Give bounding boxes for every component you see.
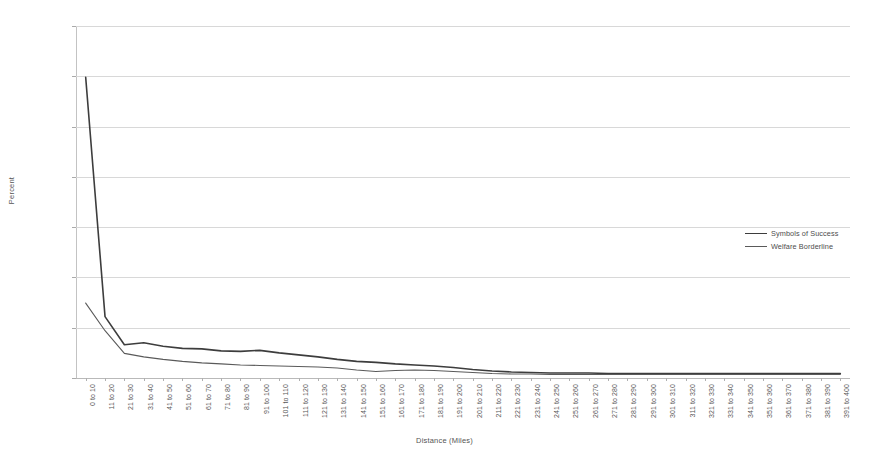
x-axis-tick-mark <box>647 378 648 381</box>
x-axis-tick-label: 151 to 160 <box>379 384 386 418</box>
x-axis-tick-label: 261 to 270 <box>592 384 599 418</box>
x-axis-tick-label: 61 to 70 <box>205 384 212 410</box>
x-axis-tick-label: 391 to 400 <box>843 384 850 418</box>
legend-swatch-line-icon <box>745 233 767 234</box>
x-axis-tick-label: 171 to 180 <box>418 384 425 418</box>
x-axis-tick-label: 41 to 50 <box>166 384 173 410</box>
x-axis-tick-mark <box>802 378 803 381</box>
x-axis-tick-mark <box>531 378 532 381</box>
x-axis-tick-label: 181 to 190 <box>437 384 444 418</box>
x-axis-tick-label: 141 to 150 <box>360 384 367 418</box>
gridline <box>76 378 850 379</box>
series-line <box>86 77 841 373</box>
x-axis-tick-label: 361 to 370 <box>785 384 792 418</box>
x-axis-tick-mark <box>821 378 822 381</box>
x-axis-tick-label: 191 to 200 <box>456 384 463 418</box>
x-axis-tick-mark <box>666 378 667 381</box>
x-axis-tick-label: 231 to 240 <box>534 384 541 418</box>
x-axis-tick-label: 101 to 110 <box>282 384 289 418</box>
line-chart: Percent 010203040506070 0 to 1011 to 202… <box>0 0 889 470</box>
x-axis-tick-mark <box>724 378 725 381</box>
x-axis-tick-mark <box>492 378 493 381</box>
x-axis-tick-mark <box>299 378 300 381</box>
x-axis-tick-label: 111 to 120 <box>302 384 309 417</box>
x-axis-tick-label: 351 to 360 <box>766 384 773 418</box>
x-axis-tick-label: 301 to 310 <box>669 384 676 418</box>
x-axis-tick-label: 11 to 20 <box>108 384 115 410</box>
x-axis-tick-mark <box>182 378 183 381</box>
x-axis-tick-mark <box>318 378 319 381</box>
legend-label: Symbols of Success <box>771 227 839 240</box>
x-axis-tick-label: 161 to 170 <box>398 384 405 418</box>
x-axis-tick-mark <box>202 378 203 381</box>
x-axis-tick-label: 31 to 40 <box>147 384 154 410</box>
x-axis-tick-mark <box>105 378 106 381</box>
x-axis-tick-mark <box>260 378 261 381</box>
legend-item: Symbols of Success <box>745 227 839 240</box>
y-axis-tick-mark <box>72 378 76 379</box>
x-axis-tick-label: 21 to 30 <box>127 384 134 410</box>
x-axis-tick-label: 131 to 140 <box>340 384 347 418</box>
x-axis-tick-mark <box>163 378 164 381</box>
x-axis-tick-mark <box>840 378 841 381</box>
series-lines <box>76 26 850 378</box>
x-axis-tick-mark <box>511 378 512 381</box>
x-axis-tick-mark <box>395 378 396 381</box>
x-axis-tick-label: 321 to 330 <box>708 384 715 418</box>
x-axis-tick-label: 381 to 390 <box>824 384 831 418</box>
x-axis-tick-mark <box>473 378 474 381</box>
x-axis-tick-label: 211 to 220 <box>495 384 502 418</box>
plot-area: 010203040506070 0 to 1011 to 2021 to 303… <box>76 26 850 378</box>
x-axis-tick-label: 51 to 60 <box>185 384 192 410</box>
x-axis-tick-mark <box>376 378 377 381</box>
x-axis-tick-label: 371 to 380 <box>805 384 812 418</box>
x-axis-tick-label: 251 to 260 <box>572 384 579 418</box>
x-axis-tick-mark <box>124 378 125 381</box>
x-axis-tick-label: 221 to 230 <box>514 384 521 418</box>
legend: Symbols of SuccessWelfare Borderline <box>745 227 839 253</box>
x-axis-tick-mark <box>415 378 416 381</box>
x-axis-tick-mark <box>705 378 706 381</box>
x-axis-tick-label: 241 to 250 <box>553 384 560 418</box>
x-axis-tick-mark <box>569 378 570 381</box>
x-axis-tick-label: 291 to 300 <box>650 384 657 418</box>
x-axis-tick-label: 81 to 90 <box>243 384 250 410</box>
x-axis-tick-mark <box>686 378 687 381</box>
x-axis-tick-mark <box>337 378 338 381</box>
x-axis-tick-label: 281 to 290 <box>630 384 637 418</box>
legend-label: Welfare Borderline <box>771 240 833 253</box>
x-axis-tick-mark <box>763 378 764 381</box>
x-axis-tick-mark <box>357 378 358 381</box>
series-line <box>86 303 841 374</box>
x-axis-tick-mark <box>86 378 87 381</box>
x-axis-tick-mark <box>240 378 241 381</box>
x-axis-tick-label: 121 to 130 <box>321 384 328 418</box>
x-axis-tick-label: 201 to 210 <box>476 384 483 418</box>
y-axis-title: Percent <box>7 161 16 221</box>
legend-item: Welfare Borderline <box>745 240 839 253</box>
x-axis-tick-label: 271 to 280 <box>611 384 618 418</box>
x-axis-tick-label: 311 to 320 <box>689 384 696 418</box>
x-axis-tick-mark <box>627 378 628 381</box>
x-axis-tick-mark <box>434 378 435 381</box>
legend-swatch-line-icon <box>745 246 767 247</box>
x-axis-tick-label: 0 to 10 <box>89 384 96 406</box>
x-axis-tick-mark <box>782 378 783 381</box>
x-axis-tick-mark <box>608 378 609 381</box>
x-axis-tick-label: 91 to 100 <box>263 384 270 414</box>
x-axis-tick-mark <box>144 378 145 381</box>
x-axis-tick-label: 341 to 350 <box>747 384 754 418</box>
x-axis-tick-mark <box>550 378 551 381</box>
x-axis-tick-mark <box>744 378 745 381</box>
x-axis-tick-mark <box>279 378 280 381</box>
x-axis-tick-mark <box>453 378 454 381</box>
x-axis-tick-mark <box>221 378 222 381</box>
x-axis-title: Distance (Miles) <box>0 436 889 445</box>
x-axis-tick-mark <box>589 378 590 381</box>
x-axis-tick-label: 331 to 340 <box>727 384 734 418</box>
x-axis-tick-label: 71 to 80 <box>224 384 231 410</box>
